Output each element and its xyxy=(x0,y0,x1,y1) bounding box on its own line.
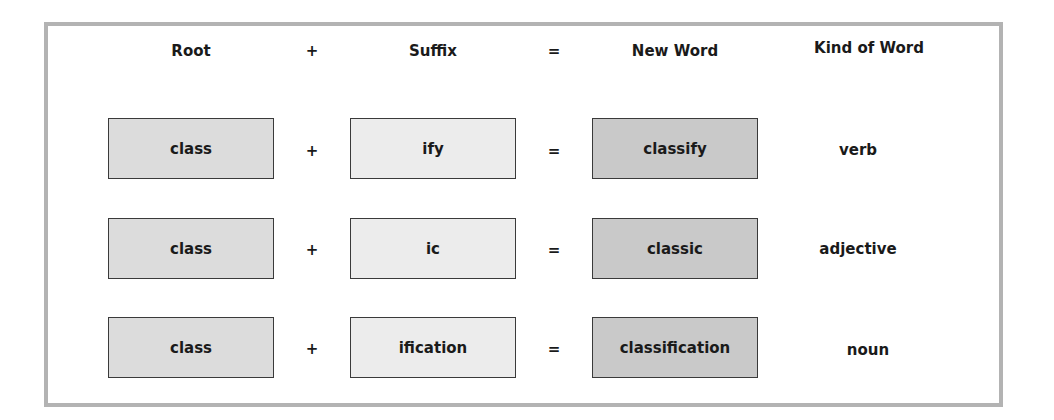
new-word-box: classify xyxy=(592,118,758,179)
suffix-text: ic xyxy=(426,240,440,258)
new-word-text: classic xyxy=(647,240,703,258)
root-text: class xyxy=(170,339,212,357)
header-suffix: Suffix xyxy=(409,42,457,60)
suffix-text: ify xyxy=(422,140,443,158)
equals-sign: = xyxy=(548,142,561,160)
plus-sign: + xyxy=(306,142,319,160)
suffix-box: ic xyxy=(350,218,516,279)
plus-sign: + xyxy=(306,241,319,259)
root-text: class xyxy=(170,240,212,258)
header-plus: + xyxy=(306,42,319,60)
root-box: class xyxy=(108,317,274,378)
new-word-text: classification xyxy=(620,339,731,357)
new-word-box: classification xyxy=(592,317,758,378)
equals-sign: = xyxy=(548,241,561,259)
kind-of-word: verb xyxy=(839,141,877,159)
suffix-box: ify xyxy=(350,118,516,179)
header-root: Root xyxy=(171,42,210,60)
root-text: class xyxy=(170,140,212,158)
header-equals: = xyxy=(548,42,561,60)
equals-sign: = xyxy=(548,340,561,358)
plus-sign: + xyxy=(306,340,319,358)
kind-of-word: adjective xyxy=(819,240,896,258)
root-box: class xyxy=(108,218,274,279)
suffix-box: ification xyxy=(350,317,516,378)
new-word-text: classify xyxy=(643,140,706,158)
header-new-word: New Word xyxy=(632,42,718,60)
suffix-text: ification xyxy=(399,339,468,357)
new-word-box: classic xyxy=(592,218,758,279)
root-box: class xyxy=(108,118,274,179)
header-kind-of-word: Kind of Word xyxy=(814,39,924,57)
kind-of-word: noun xyxy=(847,341,889,359)
